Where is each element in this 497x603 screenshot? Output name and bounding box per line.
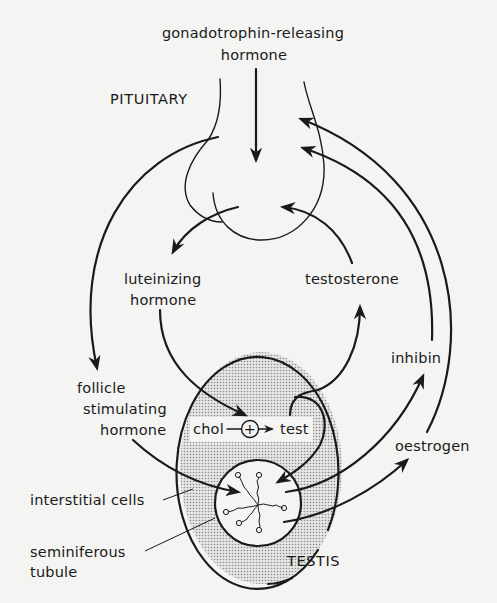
oestrogen-label: oestrogen <box>395 438 470 454</box>
fsh-arrow <box>90 137 218 368</box>
hormone-control-diagram: + gonadotrophin-releasing hormone PITUIT… <box>0 0 497 603</box>
pituitary-outline-right <box>213 82 324 240</box>
gnrh-label-line2: hormone <box>221 47 287 63</box>
lh-label-line2: hormone <box>130 292 196 308</box>
fsh-label-line1: follicle <box>77 380 126 396</box>
chol-label: chol <box>193 421 224 437</box>
interstitial-cells-label: interstitial cells <box>30 492 144 508</box>
seminiferous-label-line2: tubule <box>30 564 77 580</box>
pituitary <box>185 79 324 240</box>
plus-sign: + <box>244 421 256 437</box>
pituitary-outline <box>185 79 222 222</box>
lh-release-arrow <box>173 207 238 252</box>
fsh-label-line3: hormone <box>100 422 166 438</box>
testosterone-label: testosterone <box>305 271 399 287</box>
fsh-label-line2: stimulating <box>83 401 167 417</box>
test-label: test <box>280 421 309 437</box>
inhibin-label: inhibin <box>391 350 441 366</box>
testis-label: TESTIS <box>286 553 340 569</box>
seminiferous-label-line1: seminiferous <box>30 544 126 560</box>
testosterone-feedback-arrow <box>283 207 352 263</box>
lh-label-line1: luteinizing <box>124 271 201 287</box>
gnrh-label-line1: gonadotrophin-releasing <box>162 25 344 41</box>
pituitary-label: PITUITARY <box>110 91 188 107</box>
inhibin-feedback-arrow <box>303 148 432 340</box>
